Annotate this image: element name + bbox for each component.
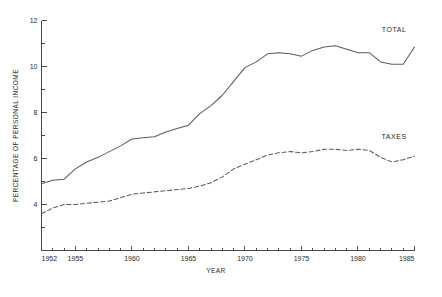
x-tick-label: 1960 (124, 255, 140, 262)
x-tick-label: 1965 (181, 255, 197, 262)
y-tick-label: 4 (34, 201, 38, 208)
series-label-total: TOTAL (382, 26, 407, 33)
x-tick-label: 1980 (350, 255, 366, 262)
chart-figure: 4681012 19521955196019651970197519801985… (0, 0, 442, 297)
y-axis-title: PERCENTAGE OF PERSONAL INCOME (12, 69, 19, 202)
x-axis-title: YEAR (206, 267, 226, 274)
axes (42, 21, 415, 251)
data-series (42, 46, 415, 214)
x-axis-ticks: 19521955196019651970197519801985 (42, 246, 415, 262)
series-line-total (42, 46, 415, 184)
series-labels: TOTALTAXES (381, 26, 406, 140)
chart-svg: 4681012 19521955196019651970197519801985… (0, 0, 442, 297)
y-axis-ticks: 4681012 (30, 17, 47, 250)
y-tick-label: 12 (30, 17, 38, 24)
x-tick-label: 1985 (399, 255, 415, 262)
x-tick-label: 1952 (42, 255, 58, 262)
x-tick-label: 1970 (237, 255, 253, 262)
y-tick-label: 10 (30, 63, 38, 70)
series-label-taxes: TAXES (381, 133, 406, 140)
x-tick-label: 1975 (294, 255, 310, 262)
y-tick-label: 8 (34, 109, 38, 116)
x-tick-label: 1955 (68, 255, 84, 262)
series-line-taxes (42, 149, 415, 213)
y-tick-label: 6 (34, 155, 38, 162)
